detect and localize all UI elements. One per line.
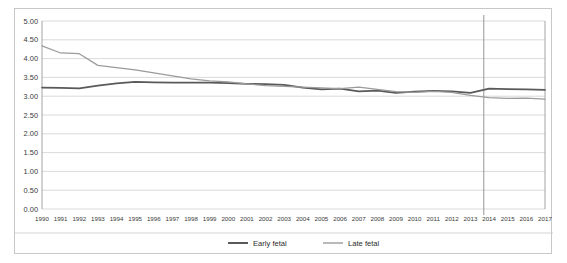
y-axis-tick-label: 4.00 (24, 54, 38, 63)
y-axis-tick-label: 0.50 (24, 186, 38, 195)
x-axis-tick-label: 2011 (427, 215, 441, 222)
x-axis-tick-label: 2015 (501, 215, 515, 222)
x-axis-tick-label: 2002 (259, 215, 273, 222)
chart-frame: 0.000.501.001.502.002.503.003.504.004.50… (14, 8, 552, 254)
y-axis-tick-label: 0.00 (24, 205, 38, 214)
x-axis-tick-label: 2016 (519, 215, 533, 222)
x-axis-tick-label: 2004 (296, 215, 310, 222)
x-axis-tick-label: 2012 (445, 215, 459, 222)
chart-plot-area: 0.000.501.001.502.002.503.003.504.004.50… (15, 9, 553, 255)
x-axis-tick-label: 1991 (54, 215, 68, 222)
x-axis-tick-label: 1999 (203, 215, 217, 222)
x-axis-tick-label: 1992 (72, 215, 86, 222)
y-axis-tick-label: 1.50 (24, 148, 38, 157)
x-axis-tick-label: 2007 (352, 215, 366, 222)
x-axis-tick-label: 2009 (389, 215, 403, 222)
x-axis-tick-label: 1996 (147, 215, 161, 222)
x-axis-tick-label: 1997 (166, 215, 180, 222)
legend-label-early-fetal[interactable]: Early fetal (253, 239, 287, 248)
line-chart: 0.000.501.001.502.002.503.003.504.004.50… (15, 9, 553, 255)
x-axis-tick-label: 1995 (128, 215, 142, 222)
legend-label-late-fetal[interactable]: Late fetal (348, 239, 380, 248)
series-line-late-fetal (42, 46, 545, 99)
x-axis-tick-label: 2008 (370, 215, 384, 222)
y-axis-tick-label: 1.00 (24, 167, 38, 176)
y-axis-tick-label: 4.50 (24, 35, 38, 44)
y-axis-tick-label: 2.00 (24, 129, 38, 138)
x-axis-tick-label: 2013 (464, 215, 478, 222)
x-axis-tick-label: 2005 (315, 215, 329, 222)
x-axis-tick-label: 1990 (35, 215, 49, 222)
x-axis-tick-label: 2000 (221, 215, 235, 222)
x-axis-tick-label: 1993 (91, 215, 105, 222)
y-axis-tick-label: 3.50 (24, 73, 38, 82)
y-axis-tick-label: 3.00 (24, 92, 38, 101)
x-axis-tick-label: 2001 (240, 215, 254, 222)
x-axis-tick-label: 2010 (408, 215, 422, 222)
x-axis-tick-label: 2017 (538, 215, 552, 222)
x-axis-tick-label: 2014 (482, 215, 496, 222)
x-axis-tick-label: 2006 (333, 215, 347, 222)
x-axis-tick-label: 2003 (277, 215, 291, 222)
x-axis-tick-label: 1998 (184, 215, 198, 222)
x-axis-tick-label: 1994 (110, 215, 124, 222)
y-axis-tick-label: 5.00 (24, 17, 38, 26)
y-axis-tick-label: 2.50 (24, 111, 38, 120)
